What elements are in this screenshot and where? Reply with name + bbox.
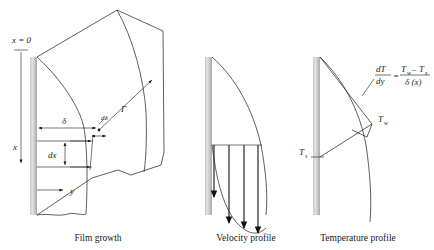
- caption-temperature-profile: Temperature profile: [320, 233, 396, 243]
- origin-label: x = 0: [11, 35, 32, 45]
- velocity-film-surface: [212, 57, 267, 215]
- temperature-film-surface: [320, 57, 371, 222]
- ddelta-label: dδ: [101, 114, 109, 122]
- dx-label: dx: [48, 150, 57, 160]
- caption-velocity-profile: Velocity profile: [216, 233, 275, 243]
- panel-velocity-profile: Velocity profile: [205, 57, 276, 243]
- equation-equals: =: [393, 71, 399, 81]
- film-back-surface: [117, 10, 146, 172]
- equation-lhs-numerator: dT: [376, 64, 387, 74]
- element-right-edge: [90, 135, 93, 170]
- film-free-surface: [37, 57, 87, 214]
- flow-rate-anchor-dot: [98, 129, 101, 132]
- delta-label: δ: [62, 116, 67, 126]
- caption-film-growth: Film growth: [74, 233, 121, 243]
- temperature-profile-line: [320, 124, 372, 157]
- film-body-bottom-edge: [37, 182, 86, 215]
- y-axis-label: y: [69, 186, 74, 196]
- x-axis-label: x: [12, 142, 17, 152]
- sat-temperature-subscript: s: [305, 153, 308, 159]
- film-bottom-ragged: [37, 213, 86, 215]
- flow-rate-label: Γ: [120, 104, 127, 114]
- equation-lhs-denominator: dy: [376, 76, 385, 86]
- wall-temperature-subscript: w: [384, 120, 388, 126]
- wall-plate-film: [30, 57, 37, 215]
- equation-rhs-num-minus: –: [411, 64, 417, 74]
- equation-leader-line: [362, 79, 374, 96]
- wall-plate-velocity: [205, 57, 212, 215]
- equation-rhs-denominator: δ (x): [405, 77, 421, 87]
- temperature-gradient-equation: dT dy = T w – T s δ (x): [375, 64, 430, 87]
- falling-film-figure: Γ x = 0 x δ dδ dx y Film growth: [0, 0, 434, 250]
- panel-temperature-profile: T w T s dT dy = T w – T s δ (x) Temperat…: [299, 57, 430, 243]
- wall-plate-temperature: [313, 57, 320, 215]
- temperature-gradient-line: [320, 57, 372, 124]
- panel-film-growth: Γ x = 0 x δ dδ dx y Film growth: [11, 10, 164, 243]
